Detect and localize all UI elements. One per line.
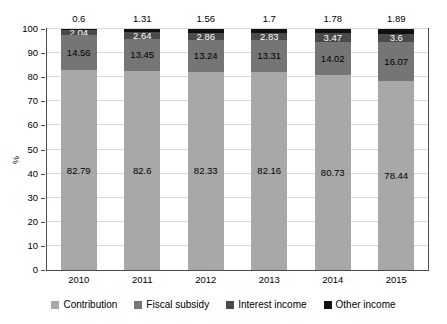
legend-item-label: Interest income	[238, 299, 306, 310]
bar-segment-value-label: 82.33	[194, 165, 218, 176]
gridline	[47, 28, 428, 29]
legend-swatch-icon	[324, 301, 332, 309]
bar-segment[interactable]: 3.47	[315, 33, 351, 41]
gridline	[47, 124, 428, 125]
gridline	[47, 100, 428, 101]
y-axis-tick-label: 80	[8, 72, 38, 82]
bar-segment[interactable]: 80.73	[315, 75, 351, 270]
legend-item[interactable]: Contribution	[51, 299, 117, 310]
y-axis-tick-mark	[41, 222, 45, 223]
legend-swatch-icon	[134, 301, 142, 309]
bar-segment[interactable]: 13.24	[188, 40, 224, 72]
y-axis-tick-mark	[41, 125, 45, 126]
bar-segment-value-label: 80.73	[321, 167, 345, 178]
gridline	[47, 52, 428, 53]
bar-segment-value-label: 13.45	[130, 49, 154, 60]
plot-inner: 2.0414.5682.792.6413.4582.62.8613.2482.3…	[47, 29, 428, 270]
y-axis-tick-label: 10	[8, 241, 38, 251]
bar-segment-value-label: 2.86	[196, 33, 215, 40]
y-axis-tick-mark	[41, 101, 45, 102]
bar-segment[interactable]: 82.16	[251, 72, 287, 270]
x-axis-tick-label: 2012	[174, 274, 238, 285]
legend-item-label: Contribution	[63, 299, 117, 310]
y-axis-tick-mark	[41, 198, 45, 199]
stacked-bar-chart: % 0102030405060708090100 2.0414.5682.792…	[0, 0, 447, 324]
bar-segment[interactable]: 13.45	[124, 39, 160, 71]
plot-area: 2.0414.5682.792.6413.4582.62.8613.2482.3…	[46, 28, 429, 271]
x-axis-tick-label: 2013	[238, 274, 302, 285]
other-income-value-label: 1.78	[301, 13, 365, 24]
stacked-bar[interactable]: 3.616.0778.44	[378, 29, 414, 270]
legend-item[interactable]: Fiscal subsidy	[134, 299, 209, 310]
y-axis-tick-label: 30	[8, 193, 38, 203]
legend-swatch-icon	[226, 301, 234, 309]
y-axis-tick-mark	[41, 29, 45, 30]
bar-segment[interactable]: 2.83	[251, 33, 287, 40]
bar-segment-value-label: 2.83	[260, 33, 279, 40]
x-axis-tick-label: 2010	[47, 274, 111, 285]
legend-swatch-icon	[51, 301, 59, 309]
stacked-bar[interactable]: 2.8613.2482.33	[188, 29, 224, 270]
legend-item[interactable]: Interest income	[226, 299, 306, 310]
x-axis-tick-label: 2014	[301, 274, 365, 285]
stacked-bar[interactable]: 3.4714.0280.73	[315, 29, 351, 270]
bar-segment-value-label: 3.47	[323, 33, 342, 41]
bar-segment[interactable]: 14.02	[315, 42, 351, 76]
gridline	[47, 221, 428, 222]
other-income-value-label: 1.89	[365, 13, 429, 24]
y-axis-tick-mark	[41, 246, 45, 247]
legend-item-label: Fiscal subsidy	[146, 299, 209, 310]
bar-segment[interactable]: 14.56	[61, 35, 97, 70]
bar-segment-value-label: 82.16	[257, 165, 281, 176]
bar-segment-value-label: 16.07	[384, 56, 408, 67]
bar-segment[interactable]: 2.86	[188, 33, 224, 40]
gridline	[47, 173, 428, 174]
bar-segment[interactable]: 78.44	[378, 81, 414, 270]
y-axis-tick-label: 50	[8, 145, 38, 155]
bar-segment-value-label: 13.31	[257, 50, 281, 61]
legend-item-label: Other income	[336, 299, 396, 310]
bar-segment[interactable]: 82.79	[61, 70, 97, 270]
bar-segment[interactable]: 82.33	[188, 72, 224, 270]
y-axis-tick-mark	[41, 270, 45, 271]
bar-segment-value-label: 78.44	[384, 170, 408, 181]
bar-segment[interactable]: 16.07	[378, 42, 414, 81]
bar-segment-value-label: 13.24	[194, 50, 218, 61]
gridline	[47, 245, 428, 246]
y-axis-tick-label: 40	[8, 169, 38, 179]
bar-segment-value-label: 82.79	[67, 165, 91, 176]
bar-segment-value-label: 14.56	[67, 47, 91, 58]
bar-segment-value-label: 3.6	[390, 34, 403, 43]
stacked-bar[interactable]: 2.6413.4582.6	[124, 29, 160, 270]
stacked-bar[interactable]: 2.0414.5682.79	[61, 29, 97, 270]
y-axis-tick-label: 60	[8, 120, 38, 130]
other-income-value-label: 1.31	[111, 13, 175, 24]
bar-segment-value-label: 82.6	[133, 165, 152, 176]
y-axis-tick-mark	[41, 174, 45, 175]
bar-segment[interactable]: 82.6	[124, 71, 160, 270]
bar-segment[interactable]: 13.31	[251, 40, 287, 72]
y-axis-tick-label: 100	[8, 24, 38, 34]
legend-item[interactable]: Other income	[324, 299, 396, 310]
bar-segment-value-label: 14.02	[321, 53, 345, 64]
y-axis-tick-label: 70	[8, 96, 38, 106]
gridline	[47, 149, 428, 150]
y-axis-tick-mark	[41, 150, 45, 151]
bar-segment[interactable]: 3.6	[378, 34, 414, 43]
gridline	[47, 76, 428, 77]
other-income-value-label: 1.56	[174, 13, 238, 24]
y-axis-tick-label: 20	[8, 217, 38, 227]
other-income-value-label: 0.6	[47, 13, 111, 24]
y-axis-tick-label: 0	[8, 265, 38, 275]
other-income-value-label: 1.7	[238, 13, 302, 24]
chart-legend: ContributionFiscal subsidyInterest incom…	[0, 299, 447, 310]
x-axis-tick-label: 2015	[365, 274, 429, 285]
stacked-bar[interactable]: 2.8313.3182.16	[251, 29, 287, 270]
y-axis-tick-mark	[41, 53, 45, 54]
y-axis-tick-label: 90	[8, 48, 38, 58]
x-axis-tick-label: 2011	[111, 274, 175, 285]
gridline	[47, 197, 428, 198]
y-axis-tick-mark	[41, 77, 45, 78]
